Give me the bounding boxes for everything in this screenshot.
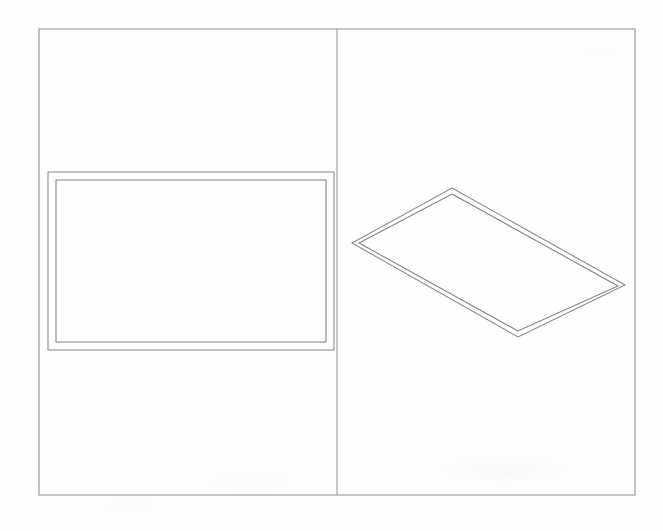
perspective-quad-inner-outline [359,194,618,331]
line-drawing [0,0,663,531]
page-canvas [0,0,663,531]
front-rectangle-outer-outline [48,172,334,350]
front-rectangle-inner-outline [56,180,326,342]
perspective-view-quad-group [352,188,625,337]
front-view-rectangle-group [48,172,334,350]
